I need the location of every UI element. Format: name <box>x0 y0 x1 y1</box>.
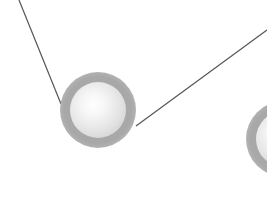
edge-line <box>136 30 267 126</box>
diagram-canvas <box>0 0 267 206</box>
node-core <box>70 82 126 138</box>
sphere-node <box>60 72 136 148</box>
edge-line <box>19 0 61 104</box>
